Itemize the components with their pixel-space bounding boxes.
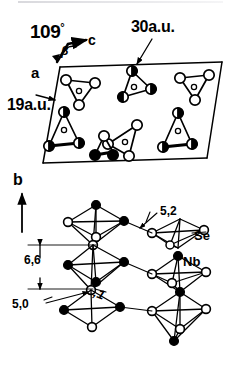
axis-tripod-ac [52, 40, 86, 62]
atom-half [44, 141, 54, 151]
dimension-arrow-66 [28, 245, 96, 289]
atom-half [74, 138, 84, 148]
polyhedron-right-1 [152, 219, 204, 248]
atom-half [118, 92, 128, 102]
atom-half [158, 142, 168, 152]
leader-81 [95, 289, 106, 292]
atom-half [59, 107, 69, 117]
atom-half [173, 108, 183, 118]
polyhedron-right-2 [152, 256, 206, 292]
leader-19 [36, 95, 55, 100]
structure-drawing [0, 0, 242, 372]
crystal-structure-figure: 109° c β a 30a.u. 19a.u. b 5,2 Se Nb 6,6… [0, 0, 242, 372]
atom-half [127, 66, 137, 76]
atom-half [187, 139, 197, 149]
leader-30 [137, 39, 152, 64]
atom-half [146, 84, 156, 94]
leader-52 [140, 212, 157, 228]
